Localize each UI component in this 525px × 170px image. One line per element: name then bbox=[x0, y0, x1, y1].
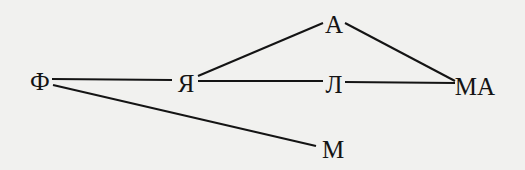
edge-f-ya bbox=[52, 79, 172, 80]
edge-a-ma bbox=[345, 23, 455, 81]
node-ya: Я bbox=[178, 71, 195, 96]
node-f: Ф bbox=[30, 69, 50, 94]
node-ma: МА bbox=[455, 74, 495, 99]
node-a: А bbox=[325, 12, 343, 37]
edge-ya-a bbox=[198, 23, 323, 76]
node-l: Л bbox=[326, 72, 343, 97]
node-m: М bbox=[322, 137, 344, 162]
edge-l-ma bbox=[345, 82, 455, 83]
graph-edges bbox=[0, 0, 525, 170]
